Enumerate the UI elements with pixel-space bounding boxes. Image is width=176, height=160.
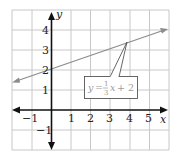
line-arrow-right-icon (160, 28, 168, 34)
x-tick-label: 2 (87, 112, 94, 125)
x-tick-label: 5 (145, 112, 152, 125)
x-axis-arrow-left-icon (12, 107, 20, 114)
y-axis-arrow-up-icon (48, 12, 55, 20)
y-axis-label: y (55, 8, 63, 21)
y-tick-label: −1 (36, 124, 52, 137)
coordinate-plane: y x −1 1 2 3 4 5 4 3 2 1 −1 y = 1 3 x + … (0, 0, 176, 160)
y-tick-label: 4 (42, 24, 49, 37)
y-tick-label: 3 (42, 44, 49, 57)
y-tick-label: 2 (42, 64, 49, 77)
y-tick-labels: 4 3 2 1 −1 (36, 24, 52, 137)
equation-equals: = (95, 82, 103, 93)
equation-constant: + 2 (117, 82, 134, 93)
y-tick-label: 1 (42, 84, 49, 97)
equation-callout: y = 1 3 x + 2 (85, 77, 138, 99)
equation-y-var: y (87, 82, 94, 93)
line-arrow-left-icon (12, 78, 20, 83)
x-tick-label: 4 (126, 112, 133, 125)
x-axis-label: x (160, 113, 167, 126)
equation-x-var: x (110, 82, 116, 93)
x-tick-label: 3 (106, 112, 113, 125)
x-tick-label: 1 (68, 112, 75, 125)
y-axis-arrow-down-icon (48, 142, 55, 150)
equation-fraction-denominator: 3 (104, 89, 108, 97)
equation-fraction-numerator: 1 (104, 80, 108, 88)
